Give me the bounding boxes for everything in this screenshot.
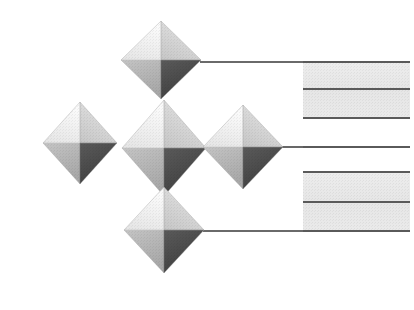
rule-line-2 [303,89,410,90]
rule-line-6 [303,202,410,203]
diagram-canvas: Isometric Diamond Network Diagram [0,0,414,310]
rule-line-3 [303,118,410,119]
rule-line-5 [303,172,410,173]
diagram-svg [0,0,414,310]
